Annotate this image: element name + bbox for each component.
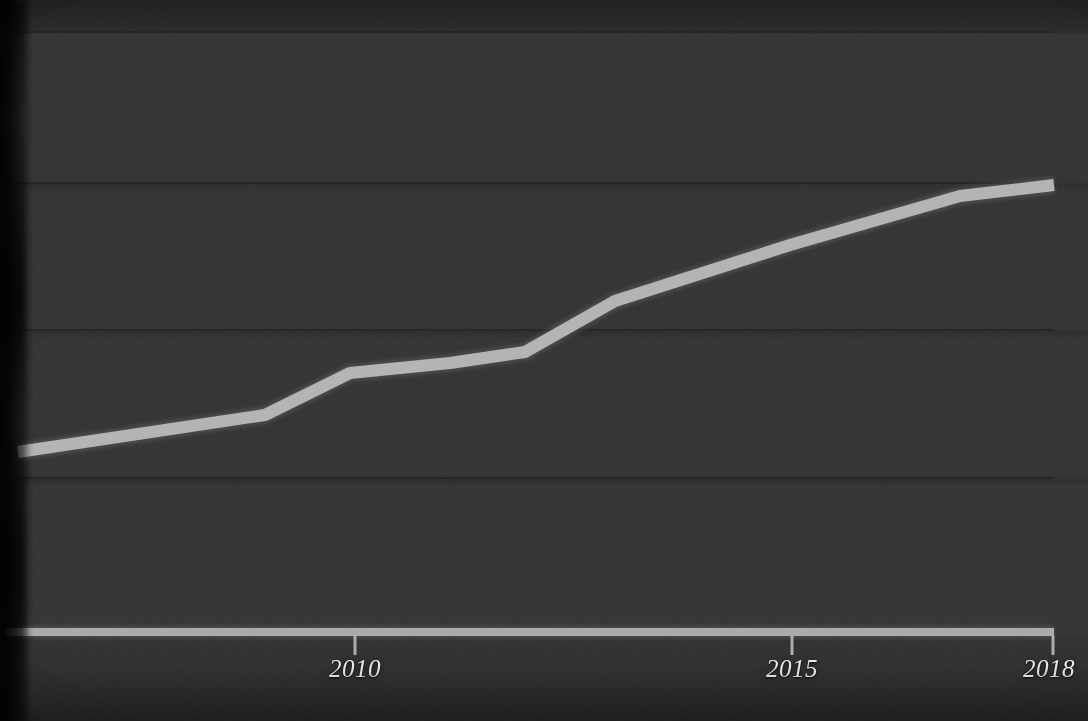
bottom-shadow-band	[0, 665, 1088, 721]
data-series-group	[18, 185, 1054, 452]
data-line-glow	[18, 185, 1054, 452]
page-edge-shadow	[0, 0, 34, 721]
chart-canvas: 2010 2015 2018	[0, 0, 1088, 721]
x-axis-group	[6, 632, 1054, 655]
top-shadow-band	[0, 0, 1088, 34]
gridline-group	[18, 32, 1054, 478]
line-chart-plot	[0, 0, 1088, 721]
data-line-series-1	[18, 185, 1054, 452]
